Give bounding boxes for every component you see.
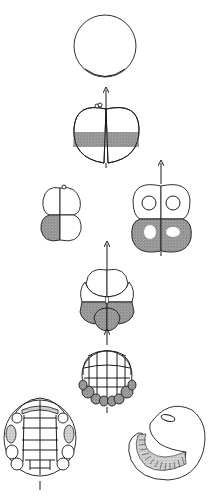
diagram-svg (0, 0, 216, 496)
stage-larva (129, 406, 205, 480)
stage-four-cell-nuclei (132, 185, 192, 256)
stage-sixteen-plus (79, 350, 136, 413)
stage-zygote (74, 15, 136, 77)
stage-eight-cell (80, 269, 134, 345)
stage-morula (4, 398, 76, 490)
stage-two-cell (73, 103, 139, 168)
cleavage-diagram (0, 0, 216, 496)
stage-four-cell (41, 185, 81, 241)
